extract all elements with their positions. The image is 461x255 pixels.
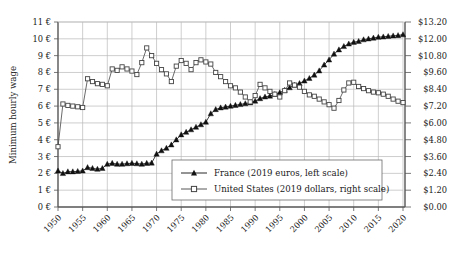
y-tick-label: 4 €: [38, 135, 51, 145]
y-tick-label: 5 €: [38, 118, 51, 128]
data-point-marker: [85, 77, 89, 81]
y2-tick-label: $13.20: [418, 17, 447, 27]
data-point-marker: [100, 82, 104, 86]
data-point-marker: [90, 79, 94, 83]
y-tick-label: 8 €: [38, 67, 51, 77]
legend-marker-open-square-icon: [191, 186, 196, 191]
data-point-marker: [66, 103, 70, 107]
data-point-marker: [337, 98, 341, 102]
data-point-marker: [288, 81, 292, 85]
data-point-marker: [105, 84, 109, 88]
data-point-marker: [130, 69, 134, 73]
data-point-marker: [386, 94, 390, 98]
data-point-marker: [223, 79, 227, 83]
data-point-marker: [312, 94, 316, 98]
data-point-marker: [263, 86, 267, 90]
data-point-marker: [56, 145, 60, 149]
data-point-marker: [391, 97, 395, 101]
data-point-marker: [228, 84, 232, 88]
data-point-marker: [371, 90, 375, 94]
y-tick-label: 0 €: [38, 202, 51, 212]
data-point-marker: [258, 82, 262, 86]
data-point-marker: [297, 85, 301, 89]
y2-tick-label: $10.80: [418, 51, 447, 61]
data-point-marker: [115, 68, 119, 72]
data-point-marker: [76, 105, 80, 109]
minimum-hourly-wage-chart: 0 €1 €2 €3 €4 €5 €6 €7 €8 €9 €10 €11 € $…: [0, 0, 461, 255]
data-point-marker: [322, 100, 326, 104]
data-point-marker: [283, 89, 287, 93]
data-point-marker: [381, 92, 385, 96]
y-tick-label: 11 €: [33, 17, 51, 27]
data-point-marker: [150, 54, 154, 58]
data-point-marker: [81, 105, 85, 109]
y-axis-title: Minimum hourly wage: [8, 66, 18, 164]
data-point-marker: [238, 90, 242, 94]
data-point-marker: [120, 65, 124, 69]
data-point-marker: [352, 80, 356, 84]
data-point-marker: [71, 104, 75, 108]
data-point-marker: [145, 46, 149, 50]
data-point-marker: [248, 100, 252, 104]
data-point-marker: [189, 68, 193, 72]
data-point-marker: [278, 95, 282, 99]
data-point-marker: [184, 61, 188, 65]
y2-tick-label: $1.20: [423, 185, 447, 195]
data-point-marker: [209, 62, 213, 66]
data-point-marker: [376, 91, 380, 95]
data-point-marker: [243, 95, 247, 99]
chart-legend[interactable]: France (2019 euros, left scale)United St…: [172, 160, 389, 200]
y-tick-label: 2 €: [38, 168, 51, 178]
data-point-marker: [110, 67, 114, 71]
data-point-marker: [366, 89, 370, 93]
y-tick-label: 3 €: [38, 152, 51, 162]
data-point-marker: [164, 72, 168, 76]
y2-tick-label: $7.20: [423, 101, 447, 111]
data-point-marker: [179, 58, 183, 62]
data-point-marker: [332, 106, 336, 110]
data-point-marker: [61, 102, 65, 106]
y2-tick-label: $6.00: [423, 118, 447, 128]
data-point-marker: [268, 89, 272, 93]
y2-tick-label: $2.40: [423, 168, 447, 178]
data-point-marker: [327, 103, 331, 107]
data-point-marker: [169, 79, 173, 83]
legend-label: United States (2019 dollars, right scale…: [214, 184, 389, 194]
data-point-marker: [253, 93, 257, 97]
y-tick-label: 6 €: [38, 101, 51, 111]
data-point-marker: [154, 61, 158, 65]
y2-tick-label: $3.60: [423, 152, 447, 162]
data-point-marker: [396, 99, 400, 103]
data-point-marker: [174, 64, 178, 68]
y-tick-label: 10 €: [33, 34, 51, 44]
data-point-marker: [214, 70, 218, 74]
data-point-marker: [135, 72, 139, 76]
data-point-marker: [347, 81, 351, 85]
data-point-marker: [95, 82, 99, 86]
y2-tick-label: $9.60: [423, 67, 447, 77]
legend-label: France (2019 euros, left scale): [214, 168, 348, 178]
data-point-marker: [233, 86, 237, 90]
y-tick-label: 9 €: [38, 51, 51, 61]
data-point-marker: [219, 75, 223, 79]
data-point-marker: [342, 88, 346, 92]
y2-tick-label: $12.00: [418, 34, 447, 44]
data-point-marker: [140, 61, 144, 65]
y-tick-label: 1 €: [38, 185, 51, 195]
data-point-marker: [357, 84, 361, 88]
chart-container: 0 €1 €2 €3 €4 €5 €6 €7 €8 €9 €10 €11 € $…: [0, 0, 461, 255]
data-point-marker: [307, 93, 311, 97]
data-point-marker: [125, 67, 129, 71]
data-point-marker: [273, 92, 277, 96]
data-point-marker: [199, 58, 203, 62]
data-point-marker: [401, 100, 405, 104]
data-point-marker: [361, 86, 365, 90]
y2-tick-label: $8.40: [423, 84, 447, 94]
data-point-marker: [204, 60, 208, 64]
data-point-marker: [194, 61, 198, 65]
data-point-marker: [292, 83, 296, 87]
data-point-marker: [302, 89, 306, 93]
data-point-marker: [317, 97, 321, 101]
data-point-marker: [159, 68, 163, 72]
y2-tick-label: $0.00: [423, 202, 447, 212]
